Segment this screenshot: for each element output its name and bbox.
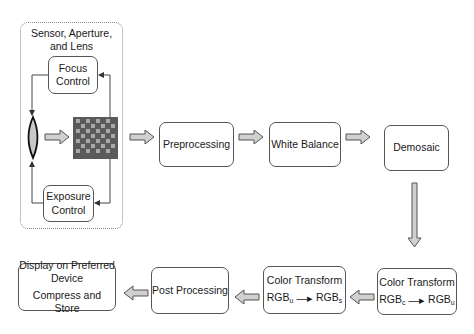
rgb-u-to-s: RGBu —▸ RGBs <box>267 291 342 306</box>
color-transform-c-to-u-box: Color Transform RGBc —▸ RGBu <box>377 268 457 315</box>
arrow-ct2-to-post <box>235 290 259 304</box>
color-transform-u-to-s-box: Color Transform RGBu —▸ RGBs <box>263 266 346 314</box>
output-box: Display on Preferred Device Compress and… <box>18 263 116 311</box>
arrow-lens-to-sensor <box>45 130 69 144</box>
bayer-sensor-icon <box>73 117 118 159</box>
arrow-wb-to-demosaic <box>346 130 370 144</box>
right-arrow-icon: —▸ <box>409 294 426 307</box>
arrow-post-to-output <box>124 286 148 300</box>
arrow-demosaic-down <box>408 183 421 247</box>
white-balance-box: White Balance <box>269 122 341 167</box>
preprocessing-box: Preprocessing <box>159 122 234 167</box>
rgb-c-to-u: RGBc —▸ RGBu <box>379 293 454 308</box>
demosaic-box: Demosaic <box>384 125 449 171</box>
arrow-ct1-to-ct2 <box>350 290 374 304</box>
lens-icon <box>29 117 38 158</box>
post-processing-box: Post Processing <box>151 267 229 314</box>
arrow-preprocessing-to-wb <box>239 130 263 144</box>
right-arrow-icon: —▸ <box>296 292 313 305</box>
arrow-sensor-to-preprocessing <box>130 130 154 144</box>
